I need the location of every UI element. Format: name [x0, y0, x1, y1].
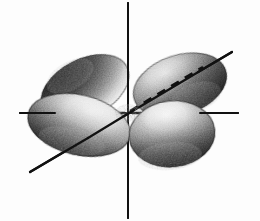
orbital-diagram-canvas — [0, 0, 260, 221]
orbital-figure — [0, 0, 260, 221]
